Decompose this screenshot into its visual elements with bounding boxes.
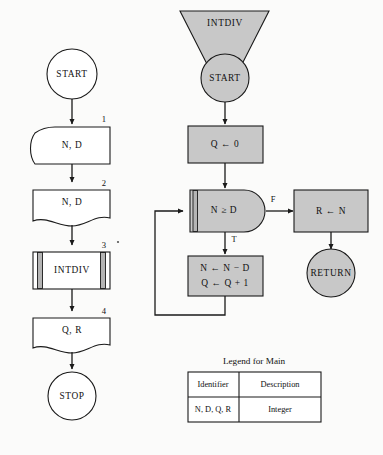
main-step-1[interactable]: N, D 1 [31, 114, 111, 164]
branch-true-label: T [231, 235, 236, 244]
main-step-4-label: Q, R [62, 325, 82, 335]
main-step-2-number: 2 [102, 178, 106, 188]
intdiv-init-process[interactable]: Q ← 0 [188, 126, 263, 163]
legend-cell-identifier: N, D, Q, R [195, 405, 232, 414]
main-step-3-label: INTDIV [54, 265, 90, 275]
intdiv-loop-body-process[interactable]: N ← N − D Q ← Q + 1 [188, 256, 263, 296]
legend-header-identifier: Identifier [197, 380, 228, 389]
main-step-2[interactable]: N, D 2 [33, 178, 110, 226]
main-step-4[interactable]: Q, R 4 [33, 306, 110, 353]
intdiv-header-label: INTDIV [207, 18, 243, 28]
intdiv-start-terminal[interactable]: START [201, 54, 249, 102]
flowchart-page: START N, D 1 N, D 2 [0, 0, 383, 455]
intdiv-init-label: Q ← 0 [211, 139, 240, 149]
main-step-3-number: 3 [102, 240, 106, 250]
false-action-label: R ← N [316, 206, 346, 216]
main-stop-terminal[interactable]: STOP [48, 372, 96, 420]
main-start-label: START [56, 69, 87, 79]
loop-body-line-2: Q ← Q + 1 [201, 278, 249, 288]
scan-speck [117, 241, 119, 243]
legend-cell-description: Integer [268, 405, 292, 414]
legend-title: Legend for Main [223, 356, 286, 366]
main-step-1-number: 1 [102, 114, 106, 124]
intdiv-start-label: START [209, 73, 240, 83]
legend-header-description: Description [260, 380, 300, 389]
intdiv-return-label: RETURN [310, 268, 351, 278]
loop-body-line-1: N ← N − D [200, 263, 250, 273]
intdiv-false-action-process[interactable]: R ← N [294, 190, 368, 232]
main-step-2-label: N, D [62, 197, 83, 207]
legend-table: Legend for Main Identifier Description N… [188, 356, 321, 422]
main-step-4-number: 4 [102, 306, 107, 316]
flowchart-canvas: START N, D 1 N, D 2 [0, 0, 383, 455]
intdiv-return-terminal[interactable]: RETURN [307, 249, 355, 297]
main-step-1-label: N, D [62, 140, 83, 150]
intdiv-module: INTDIV START Q ← 0 N ≥ D [155, 11, 368, 315]
main-step-3[interactable]: INTDIV 3 [33, 240, 110, 289]
branch-false-label: F [271, 195, 276, 204]
intdiv-decision-label: N ≥ D [211, 205, 237, 215]
intdiv-loop-decision[interactable]: N ≥ D [190, 190, 265, 232]
main-start-terminal[interactable]: START [47, 49, 97, 99]
main-module: START N, D 1 N, D 2 [31, 49, 120, 420]
main-stop-label: STOP [59, 391, 84, 401]
